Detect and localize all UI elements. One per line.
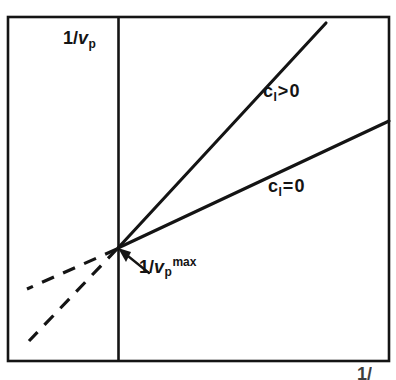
upper-line-label: cI>0 (263, 82, 299, 103)
x-axis-label: 1/ (357, 365, 372, 380)
upper-line-symbol: c (263, 81, 273, 101)
intercept-label-subscript: p (164, 265, 172, 279)
y-axis-label-prefix: 1/ (63, 28, 78, 48)
plot-frame (8, 17, 389, 361)
dashed-extension-lower (29, 249, 117, 341)
upper-line-value: 0 (289, 81, 299, 101)
dashed-extension-upper (27, 249, 117, 289)
line-ci-greater-zero (118, 23, 326, 248)
intercept-label-symbol: v (154, 257, 164, 277)
intercept-label-prefix: 1/ (139, 257, 154, 277)
y-axis-label: 1/vp (63, 29, 96, 50)
intercept-label-superscript: max (172, 255, 197, 269)
figure-container: 1/vp cI>0 cI=0 1/vpmax 1/ (0, 0, 396, 380)
lower-line-relation: = (282, 176, 295, 196)
y-axis-label-subscript: p (88, 37, 96, 51)
lower-line-value: 0 (294, 176, 304, 196)
upper-line-relation: > (277, 81, 290, 101)
line-ci-equals-zero (118, 121, 389, 248)
lower-line-symbol: c (268, 176, 278, 196)
intercept-label: 1/vpmax (139, 256, 196, 278)
lower-line-label: cI=0 (268, 177, 304, 198)
plot-canvas (0, 0, 396, 380)
y-axis-label-symbol: v (78, 28, 88, 48)
